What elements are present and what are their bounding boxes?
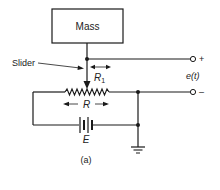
mass-label: Mass (76, 21, 100, 32)
potentiometer-circuit-diagram: Mass + Slider R1 e(t) – R E (0, 0, 220, 190)
figure-caption: (a) (81, 155, 92, 165)
battery-icon (80, 117, 92, 133)
junction-dot-bottom (136, 123, 140, 127)
output-voltage-label: e(t) (186, 71, 200, 81)
ground-icon (131, 147, 145, 153)
slider-leader-line (38, 63, 80, 68)
slider-label: Slider (12, 58, 35, 68)
r1-label: R1 (94, 72, 105, 84)
r-label: R (83, 99, 90, 110)
mass-block: Mass (52, 9, 123, 43)
slider-leader-arrow-icon (78, 66, 85, 70)
potentiometer-resistor (65, 89, 109, 95)
plus-terminal (190, 56, 195, 61)
plus-label: + (199, 54, 204, 64)
minus-terminal (190, 89, 195, 94)
e-label: E (83, 134, 90, 145)
minus-label: – (199, 87, 204, 97)
r1-dimension-arrow (90, 65, 111, 69)
